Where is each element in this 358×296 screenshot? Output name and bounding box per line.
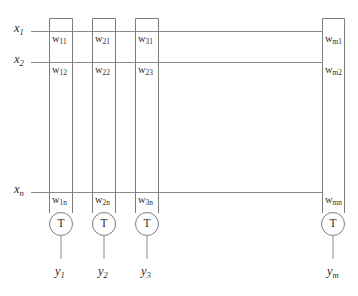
output-label-y3: y3 bbox=[141, 265, 151, 278]
input-label-x1: x1 bbox=[14, 22, 24, 35]
threshold-symbol-m: T bbox=[323, 218, 343, 230]
weight-label-wm1: wm1 bbox=[325, 34, 342, 45]
weight-label-w12: w12 bbox=[52, 65, 67, 76]
threshold-symbol-1: T bbox=[51, 218, 71, 230]
threshold-symbol-2: T bbox=[94, 218, 114, 230]
output-label-y2: y2 bbox=[98, 265, 108, 278]
weight-label-w3n: w3n bbox=[138, 195, 153, 206]
input-label-xn: xn bbox=[14, 183, 24, 196]
weight-label-w11: w11 bbox=[52, 34, 67, 45]
weight-label-w23: w23 bbox=[138, 65, 153, 76]
output-label-y1: y1 bbox=[55, 265, 65, 278]
weight-label-w1n: w1n bbox=[52, 195, 67, 206]
weight-label-wmn: wmn bbox=[325, 195, 342, 206]
threshold-logic-network-diagram: x1 x2 xn w11 w12 w1n w21 w22 w2n w31 w23… bbox=[0, 0, 358, 296]
weight-label-w2n: w2n bbox=[95, 195, 110, 206]
weight-label-wm2: wm2 bbox=[325, 65, 342, 76]
input-label-x2: x2 bbox=[14, 53, 24, 66]
weight-label-w21: w21 bbox=[95, 34, 110, 45]
weight-label-w22: w22 bbox=[95, 65, 110, 76]
threshold-symbol-3: T bbox=[137, 218, 157, 230]
input-wires bbox=[31, 32, 322, 193]
weight-label-w31: w31 bbox=[138, 34, 153, 45]
output-label-ym: ym bbox=[327, 265, 339, 278]
